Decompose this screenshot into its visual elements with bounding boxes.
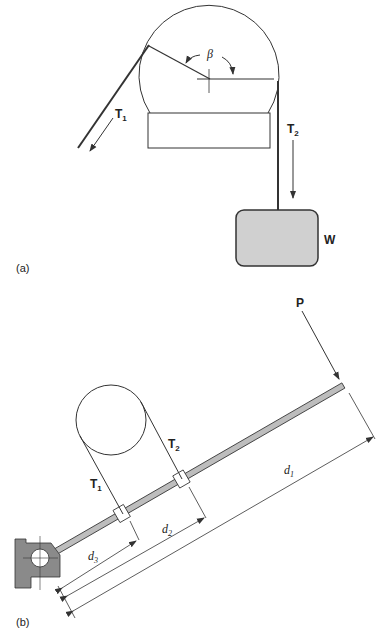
pivot-bracket [15,536,60,590]
caption-a: (a) [16,262,29,274]
angle-label: β [206,47,213,61]
dim-label-d3: d3 [88,549,98,565]
lever-bar [54,383,345,555]
angle-arc-right [222,57,233,74]
tension-2-label: T2 [287,122,299,138]
load-arrow [302,311,339,379]
load-label: P [296,296,304,310]
dim-line-d1 [73,437,373,611]
part-b: T1 T2 P d3 d2 d1 (b) [15,296,375,628]
dim-label-d1: d1 [284,463,294,479]
pulley [76,385,146,455]
dim-label-d2: d2 [162,522,172,538]
band-t1 [80,436,123,514]
ext-line-end [349,393,375,439]
ext-line-collar2 [189,487,206,518]
caption-b: (b) [16,616,29,628]
tension-1-label-b: T1 [90,477,102,493]
weight-block [236,210,318,266]
band-t2 [141,402,182,479]
angle-arc-left [186,55,200,63]
drum-base [148,113,270,148]
ext-line-collar1 [130,521,139,540]
radius-line [149,46,210,79]
tension-2-label-b: T2 [168,437,180,453]
rope-t1 [78,45,149,148]
band-brake-diagram: β T1 T2 W (a) T1 T2 P [0,0,387,638]
weight-label: W [324,233,336,247]
ext-line-pivot [58,586,75,618]
tension-1-label: T1 [115,107,127,123]
force-arrow-t1 [90,118,113,151]
part-a: β T1 T2 W (a) [16,5,336,274]
